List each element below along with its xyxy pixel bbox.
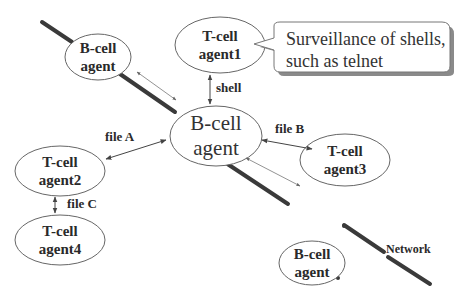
node-label: agent (81, 57, 116, 75)
node-label: T-cell (42, 222, 77, 240)
edge-label-file-c: file C (67, 197, 97, 211)
edge-label-shell: shell (216, 81, 241, 95)
node-label: agent (193, 136, 238, 161)
node-label: agent (295, 263, 330, 281)
tcell-agent2: T-cell agent2 (15, 146, 105, 196)
bcell-agent-bottom: B-cell agent (279, 241, 345, 285)
tcell-agent4: T-cell agent4 (15, 215, 105, 265)
bcell-agent-top: B-cell agent (65, 34, 131, 80)
node-label: B-cell (80, 39, 117, 57)
node-label: B-cell (190, 111, 241, 136)
callout-text: Surveillance of shells, such as telnet (286, 28, 445, 72)
node-label: T-cell (42, 153, 77, 171)
node-label: agent4 (39, 240, 82, 258)
tcell-agent1: T-cell agent1 (175, 17, 265, 73)
tcell-agent3: T-cell agent3 (300, 134, 390, 186)
node-label: agent2 (39, 171, 82, 189)
callout-line-2: such as telnet (286, 50, 445, 72)
network-label: Network (386, 243, 431, 256)
bcell-agent-center: B-cell agent (170, 106, 262, 166)
edge-label-file-a: file A (105, 130, 134, 144)
node-label: B-cell (294, 245, 331, 263)
callout-line-1: Surveillance of shells, (286, 28, 445, 50)
node-label: agent3 (324, 160, 367, 178)
node-label: T-cell (202, 27, 237, 45)
edge-label-file-b: file B (275, 122, 304, 136)
node-label: agent1 (199, 45, 242, 63)
bcell-top-link (137, 72, 176, 100)
node-label: T-cell (327, 142, 362, 160)
